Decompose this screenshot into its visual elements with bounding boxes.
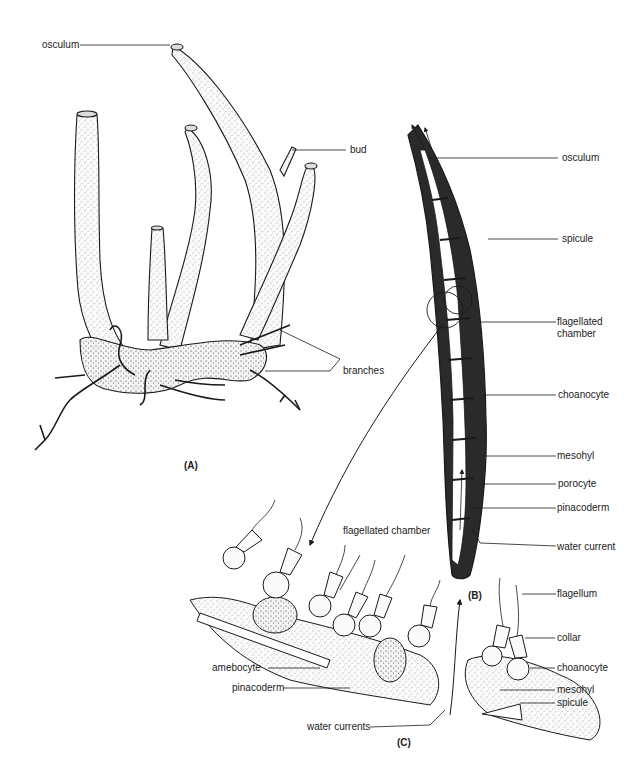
panel-c-drawing — [190, 500, 600, 740]
label-b-pinacoderm: pinacoderm — [557, 502, 609, 513]
magnification-arrow — [310, 324, 443, 545]
label-c-flagellum: flagellum — [557, 588, 597, 599]
label-b-flagellated-chamber-1: flagellated — [557, 316, 603, 327]
label-b-choanocyte: choanocyte — [558, 389, 609, 400]
label-a-bud: bud — [350, 144, 367, 155]
label-b-spicule: spicule — [562, 233, 593, 244]
panel-b-drawing — [408, 125, 486, 579]
panel-label-c: (C) — [397, 737, 411, 748]
sponge-anatomy-illustration — [0, 0, 640, 778]
panel-a-drawing — [35, 44, 317, 450]
label-b-porocyte: porocyte — [558, 478, 596, 489]
label-c-collar: collar — [557, 632, 581, 643]
label-b-mesohyl: mesohyl — [557, 450, 594, 461]
label-c-water-currents: water currents — [307, 721, 370, 732]
panel-label-a: (A) — [184, 460, 198, 471]
label-b-water-current: water current — [557, 541, 615, 552]
panel-label-b: (B) — [468, 590, 482, 601]
label-a-branches: branches — [343, 365, 384, 376]
label-c-pinacoderm: pinacoderm — [232, 682, 284, 693]
label-c-flagellated-chamber: flagellated chamber — [343, 525, 430, 536]
label-a-osculum: osculum — [42, 39, 79, 50]
label-c-amebocyte: amebocyte — [212, 662, 261, 673]
label-c-spicule: spicule — [557, 697, 588, 708]
label-c-mesohyl: mesohyl — [557, 684, 594, 695]
label-c-choanocyte: choanocyte — [557, 662, 608, 673]
label-b-flagellated-chamber-2: chamber — [557, 328, 596, 339]
label-b-osculum: osculum — [562, 152, 599, 163]
